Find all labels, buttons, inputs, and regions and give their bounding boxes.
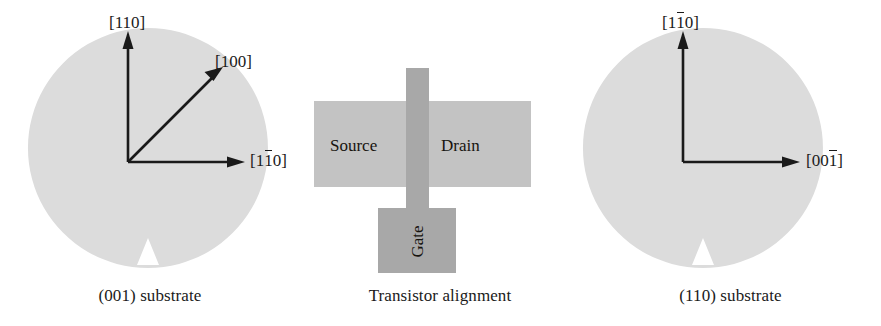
gate-label: Gate bbox=[409, 225, 426, 257]
axis-label-1bar10: [110] bbox=[662, 14, 699, 31]
wafer-001-stage: [110] [100] [110] bbox=[0, 0, 300, 280]
transistor-stage: Source Drain Gate bbox=[300, 0, 580, 280]
source-label: Source bbox=[330, 137, 377, 154]
axis-label-00bar1: [001] bbox=[806, 152, 843, 169]
panel-110-substrate: [110] [001] (110) substrate bbox=[580, 0, 881, 326]
wafer-110-stage: [110] [001] bbox=[580, 0, 881, 280]
wafer-110-disc bbox=[583, 28, 823, 268]
axis-label-100: [100] bbox=[215, 53, 252, 70]
caption-001-substrate: (001) substrate bbox=[0, 286, 300, 306]
axis-label-110: [110] bbox=[109, 14, 145, 31]
panel-transistor-alignment: Source Drain Gate Transistor alignment bbox=[300, 0, 580, 326]
panel-001-substrate: [110] [100] [110] (001) substrate bbox=[0, 0, 300, 326]
axis-label-1bar10: [110] bbox=[250, 152, 287, 169]
drain-label: Drain bbox=[441, 137, 480, 154]
caption-110-substrate: (110) substrate bbox=[580, 286, 881, 306]
caption-transistor-alignment: Transistor alignment bbox=[300, 286, 580, 306]
